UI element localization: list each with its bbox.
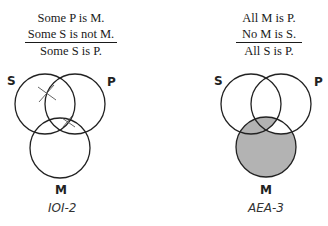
right-caption: AEA-3: [248, 201, 284, 215]
x-mark-icon: [38, 85, 56, 102]
right-label-s: S: [214, 74, 223, 88]
right-label-p: P: [314, 75, 323, 89]
left-label-s: S: [7, 74, 16, 88]
left-label-m: M: [55, 183, 67, 197]
venn-diagrams: [0, 0, 328, 226]
left-caption: IOI-2: [48, 201, 77, 215]
left-circle-m: [30, 118, 90, 178]
right-label-m: M: [260, 183, 272, 197]
left-label-p: P: [107, 75, 116, 89]
left-venn: [15, 74, 105, 178]
right-venn-shading: [230, 110, 310, 180]
